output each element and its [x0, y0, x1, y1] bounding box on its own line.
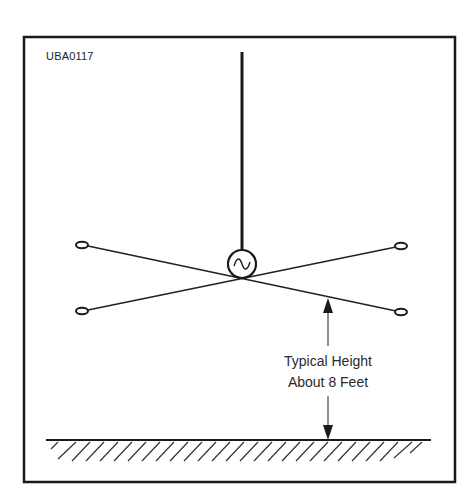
arrow-down-icon [323, 425, 333, 440]
height-label-line2: About 8 Feet [258, 372, 398, 392]
height-label-line1: Typical Height [258, 351, 398, 371]
ground-hatching [51, 442, 422, 461]
antenna-diagram [0, 0, 476, 504]
arrow-up-icon [323, 298, 333, 313]
insulator-icon [395, 243, 407, 249]
insulator-icon [76, 308, 88, 314]
insulator-icon [395, 309, 407, 315]
figure-id: UBA0117 [46, 50, 94, 62]
insulator-icon [76, 242, 88, 248]
